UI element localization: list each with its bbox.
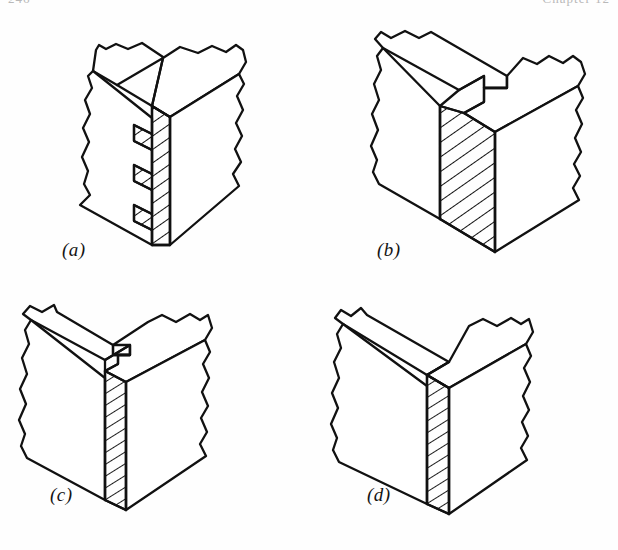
joint-panel-b: (b) [309,14,618,282]
joint-panel-a: (a) [0,14,309,282]
joint-panel-c: (c) [0,282,309,550]
figure-grid: (a) [0,14,618,550]
caption-d: (d) [367,484,391,506]
rabbet-hatched-end-grain [440,106,495,252]
caption-b: (b) [377,239,401,261]
shoulder-hatched-end-grain [105,371,126,510]
joint-panel-d: (d) [309,282,618,550]
running-head-right: Chapter 12 [543,0,610,7]
scanned-page: 246 Chapter 12 [0,0,618,550]
butt-hatched-end-grain [427,375,449,514]
running-head: 246 Chapter 12 [0,0,618,14]
caption-a: (a) [62,239,86,261]
running-head-left: 246 [8,0,31,7]
caption-c: (c) [50,484,73,506]
